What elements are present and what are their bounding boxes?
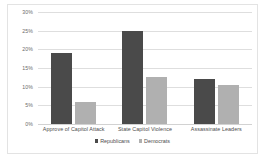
y-axis-tick: 30% [22, 9, 33, 15]
bar-republicans [122, 31, 143, 124]
x-axis-label: Approve of Capitol Attack [38, 126, 109, 132]
bar-chart: 30% 25% 20% 15% 10% 5% 0% Approve of Cap… [7, 4, 258, 154]
y-axis-tick: 10% [22, 84, 33, 90]
legend-item-republicans: Republicans [95, 138, 130, 144]
y-axis-tick: 25% [22, 28, 33, 34]
bar-groups [38, 12, 252, 124]
y-axis: 30% 25% 20% 15% 10% 5% 0% [8, 12, 36, 124]
legend-swatch-icon [95, 139, 98, 142]
y-axis-tick: 20% [22, 46, 33, 52]
legend-label: Republicans [100, 138, 130, 144]
legend-label: Democrats [144, 138, 170, 144]
legend-swatch-icon [139, 139, 142, 142]
y-axis-tick: 5% [25, 102, 33, 108]
bar-group [109, 12, 180, 124]
y-axis-tick: 15% [22, 65, 33, 71]
bar-republicans [194, 79, 215, 124]
bar-democrats [75, 102, 96, 124]
bar-democrats [146, 77, 167, 124]
chart-legend: Republicans Democrats [8, 138, 257, 144]
y-axis-tick: 0% [25, 121, 33, 127]
x-axis-label: State Capitol Violence [109, 126, 180, 132]
bar-republicans [51, 53, 72, 124]
legend-item-democrats: Democrats [139, 138, 170, 144]
bar-democrats [218, 85, 239, 124]
bar-group [181, 12, 252, 124]
x-axis-label: Assassinate Leaders [181, 126, 252, 132]
gridline [38, 124, 252, 125]
x-axis: Approve of Capitol Attack State Capitol … [38, 126, 252, 132]
plot-area [38, 12, 252, 124]
bar-group [38, 12, 109, 124]
